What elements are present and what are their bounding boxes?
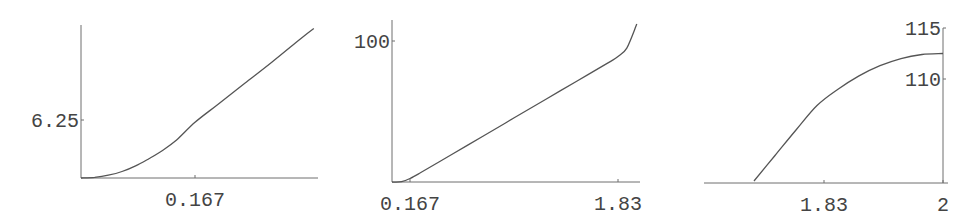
y-tick-label: 110 xyxy=(905,69,941,92)
x-tick-label: 1.83 xyxy=(800,194,848,217)
plot-3: 1.832110115 xyxy=(704,18,949,217)
y-tick-label: 6.25 xyxy=(31,110,79,133)
plot-1: 0.1676.25 xyxy=(31,25,318,212)
x-tick-label: 2 xyxy=(937,194,949,217)
y-tick-label: 115 xyxy=(905,18,941,41)
chart-figure: 0.1676.25 0.1671.83100 1.832110115 xyxy=(0,0,968,223)
plot-2: 0.1671.83100 xyxy=(354,20,642,216)
series-line-curve-2 xyxy=(392,24,637,182)
x-tick-label: 0.167 xyxy=(165,189,225,212)
series-line-curve-1 xyxy=(81,29,314,178)
x-tick-label: 1.83 xyxy=(594,193,642,216)
x-tick-label: 0.167 xyxy=(380,193,440,216)
y-tick-label: 100 xyxy=(354,31,390,54)
